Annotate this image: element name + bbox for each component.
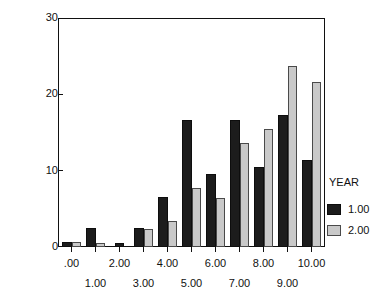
bar-2.00-1.00 [96,243,106,247]
x-tick-label: 9.00 [277,278,298,289]
x-tick-label: 7.00 [229,278,250,289]
bar-group [276,18,300,247]
bar-2.00-3.00 [144,229,154,247]
bar-group [252,18,276,247]
bar-2.00-10.00 [312,82,322,247]
legend-title: YEAR [329,176,387,188]
y-tick-label: 30 [36,12,58,23]
y-axis-ticks: 0102030 [28,0,58,306]
y-tick-mark [58,170,63,172]
x-tick-mark [311,247,313,252]
bar-2.00-4.00 [168,221,178,247]
x-tick-mark [71,247,73,252]
x-tick-label: 2.00 [109,258,130,269]
bar-1.00-7.00 [230,120,240,247]
y-tick-label: 0 [36,241,58,252]
legend-label-series-1: 1.00 [348,204,369,215]
legend-item-2[interactable]: 2.00 [327,225,387,236]
bar-1.00-10.00 [302,160,312,247]
x-tick-label: 4.00 [157,258,178,269]
bar-2.00-7.00 [240,143,250,247]
x-tick-label: .00 [64,258,79,269]
bar-1.00-1.00 [86,228,96,247]
bar-1.00-4.00 [158,197,168,247]
bar-2.00-9.00 [288,66,298,247]
y-tick-label: 10 [36,165,58,176]
bar-2.00-.00 [72,242,82,247]
bar-1.00-6.00 [206,174,216,247]
legend-swatch-series-1 [327,204,341,215]
bar-group [180,18,204,247]
bar-group [84,18,108,247]
x-tick-label: 5.00 [181,278,202,289]
bar-1.00-8.00 [254,167,264,247]
bar-group [108,18,132,247]
legend: YEAR 1.00 2.00 [327,176,387,246]
bar-group [156,18,180,247]
bar-group [228,18,252,247]
x-tick-label: 10.00 [298,258,326,269]
bar-2.00-6.00 [216,198,226,247]
x-tick-mark [95,247,97,252]
x-tick-label: 6.00 [205,258,226,269]
y-tick-label: 20 [36,88,58,99]
bar-2.00-8.00 [264,129,274,247]
x-tick-mark [287,247,289,252]
legend-label-series-2: 2.00 [348,225,369,236]
bar-group [60,18,84,247]
bar-1.00-5.00 [182,120,192,247]
plot-area [60,18,324,247]
bar-group [204,18,228,247]
bar-1.00-3.00 [134,228,144,247]
x-tick-mark [215,247,217,252]
x-tick-label: 8.00 [253,258,274,269]
bar-2.00-5.00 [192,188,202,247]
x-tick-label: 3.00 [133,278,154,289]
x-tick-mark [191,247,193,252]
x-tick-mark [143,247,145,252]
legend-swatch-series-2 [327,225,341,236]
x-tick-mark [263,247,265,252]
bar-1.00-9.00 [278,115,288,247]
legend-item-1[interactable]: 1.00 [327,204,387,215]
x-tick-mark [239,247,241,252]
x-tick-mark [119,247,121,252]
x-tick-label: 1.00 [85,278,106,289]
bar-group [300,18,324,247]
x-tick-mark [167,247,169,252]
y-tick-mark [58,94,63,96]
bar-group [132,18,156,247]
bar-chart: Percentage of pupils 0102030 YEAR 1.00 2… [0,0,389,306]
